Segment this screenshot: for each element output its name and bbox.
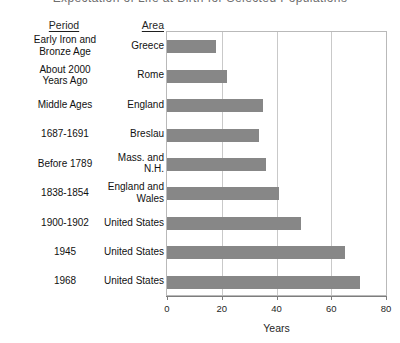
x-tick-20 bbox=[222, 296, 223, 300]
x-tick-label-40: 40 bbox=[257, 303, 297, 314]
area-label: Rome bbox=[100, 60, 164, 89]
x-tick-label-80: 80 bbox=[366, 303, 400, 314]
area-label: Greece bbox=[100, 31, 164, 60]
x-tick-label-20: 20 bbox=[202, 303, 242, 314]
x-axis-title: Years bbox=[166, 322, 387, 334]
bar bbox=[167, 276, 360, 289]
bar bbox=[167, 158, 266, 171]
period-label-line1: 1900-1902 bbox=[41, 217, 89, 229]
area-label-line1: United States bbox=[104, 217, 164, 229]
period-label-line1: Early Iron and bbox=[34, 34, 96, 46]
x-tick-label-0: 0 bbox=[147, 303, 187, 314]
period-label-line2: Bronze Age bbox=[34, 46, 96, 58]
area-label-line1: Greece bbox=[131, 40, 164, 52]
bar bbox=[167, 246, 345, 259]
area-label-line1: United States bbox=[104, 246, 164, 258]
cut-off-caption: Expectation of Life at Birth for Selecte… bbox=[0, 0, 400, 5]
period-label-line1: 1945 bbox=[54, 246, 76, 258]
area-label: United States bbox=[100, 208, 164, 237]
area-label-line1: United States bbox=[104, 275, 164, 287]
x-tick-label-60: 60 bbox=[311, 303, 351, 314]
bar bbox=[167, 40, 216, 53]
period-label-line1: Before 1789 bbox=[38, 158, 93, 170]
bar bbox=[167, 187, 279, 200]
period-label-line2: Years Ago bbox=[39, 75, 90, 87]
life-expectancy-bar-chart: Expectation of Life at Birth for Selecte… bbox=[0, 0, 400, 343]
bar bbox=[167, 70, 227, 83]
x-tick-60 bbox=[331, 296, 332, 300]
period-label-line1: 1838-1854 bbox=[41, 187, 89, 199]
area-label: United States bbox=[100, 237, 164, 266]
bar bbox=[167, 217, 301, 230]
area-label-column: GreeceRomeEnglandBreslauMass. and N.H.En… bbox=[100, 31, 164, 296]
area-label: Mass. and N.H. bbox=[100, 149, 164, 178]
x-tick-0 bbox=[167, 296, 168, 300]
x-tick-80 bbox=[386, 296, 387, 300]
area-label: England bbox=[100, 90, 164, 119]
period-label-line1: 1687-1691 bbox=[41, 128, 89, 140]
column-header-area: Area bbox=[108, 19, 164, 31]
area-label: Breslau bbox=[100, 119, 164, 148]
period-label-line1: About 2000 bbox=[39, 64, 90, 76]
bar bbox=[167, 99, 263, 112]
area-label: England andWales bbox=[100, 178, 164, 207]
area-label-line1: England and bbox=[108, 181, 164, 193]
bar bbox=[167, 129, 259, 142]
period-label-line1: 1968 bbox=[54, 275, 76, 287]
area-label-line1: England bbox=[127, 99, 164, 111]
area-label-line1: Rome bbox=[137, 69, 164, 81]
area-label-line1: Breslau bbox=[130, 128, 164, 140]
plot-area bbox=[166, 31, 387, 296]
x-tick-40 bbox=[277, 296, 278, 300]
area-label-line1: Mass. and N.H. bbox=[100, 152, 164, 175]
period-label-line1: Middle Ages bbox=[38, 99, 92, 111]
area-label: United States bbox=[100, 267, 164, 296]
area-label-line2: Wales bbox=[108, 193, 164, 205]
